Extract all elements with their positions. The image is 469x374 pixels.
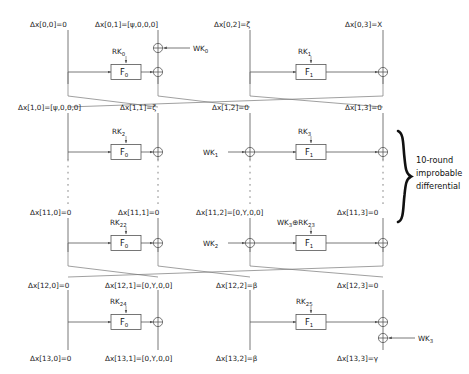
swap-wire-11-c [250, 248, 383, 277]
label-1-2: Δx[1,2]=0 [212, 103, 249, 112]
rk-label-11-right: WK3⊕RK23 [277, 218, 315, 228]
label-1-1: Δx[1,1]=ζ [120, 103, 156, 112]
label-13-3: Δx[13,3]=γ [337, 354, 379, 363]
label-13-0: Δx[13,0]=0 [30, 354, 72, 363]
label-0-3: Δx[0,3]=X [345, 20, 382, 29]
label-12-1: Δx[12,1]=[0,Y,0,0] [105, 281, 173, 290]
rk-label-12-right: RK25 [296, 297, 313, 307]
annotation-line-1: 10-round [416, 155, 453, 165]
annotation-line-2: improbable [416, 168, 462, 178]
rk-label-0-left: RK0 [112, 47, 126, 57]
label-13-2: Δx[13,2]=β [216, 354, 258, 363]
rk-label-1-right: RK3 [298, 127, 311, 137]
annotation-line-3: differential [416, 181, 460, 191]
curly-brace [398, 131, 411, 222]
swap-wire-11-b [158, 248, 250, 277]
label-12-3: Δx[12,3]=0 [337, 281, 379, 290]
label-11-0: Δx[11,0]=0 [30, 208, 72, 217]
label-11-3: Δx[11,3]=0 [337, 208, 379, 217]
label-1-3: Δx[1,3]=0 [345, 103, 382, 112]
rk-label-12-left: RK24 [110, 297, 127, 307]
improbable-differential-figure: Δx[0,0]=0 Δx[0,1]=[ψ,0,0,0] Δx[0,2]=ζ Δx… [0, 0, 469, 374]
label-13-1: Δx[13,1]=[0,Y,0,0] [105, 354, 173, 363]
wk-label-1: WK1 [203, 148, 218, 158]
wk-label-11: WK2 [203, 239, 218, 249]
wk-label-12: WK3 [418, 334, 433, 344]
label-0-2: Δx[0,2]=ζ [214, 20, 250, 29]
label-11-2: Δx[11,2]=[0,Y,0,0] [196, 208, 264, 217]
label-1-0: Δx[1,0]=[ψ,0,0,0] [18, 103, 81, 112]
figure-canvas: Δx[0,0]=0 Δx[0,1]=[ψ,0,0,0] Δx[0,2]=ζ Δx… [0, 0, 469, 374]
swap-wire-11-d [68, 248, 383, 277]
label-11-1: Δx[11,1]=0 [118, 208, 160, 217]
rk-label-1-left: RK2 [112, 127, 125, 137]
wk-label-0: WK0 [193, 44, 209, 54]
label-12-2: Δx[12,2]=β [216, 281, 258, 290]
label-12-0: Δx[12,0]=0 [28, 281, 70, 290]
brace-group [398, 131, 411, 222]
rk-label-0-right: RK1 [298, 47, 311, 57]
label-0-1: Δx[0,1]=[ψ,0,0,0] [95, 20, 158, 29]
label-0-0: Δx[0,0]=0 [30, 20, 67, 29]
rk-label-11-left: RK22 [110, 218, 127, 228]
round-row-0 [68, 30, 388, 107]
